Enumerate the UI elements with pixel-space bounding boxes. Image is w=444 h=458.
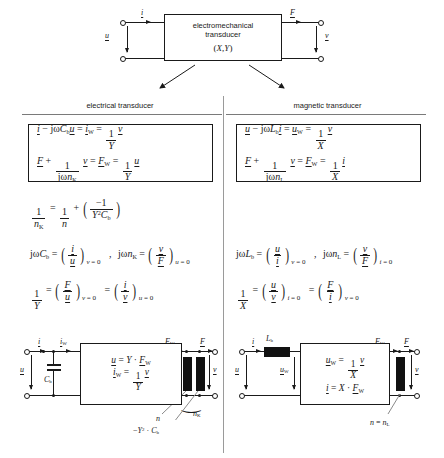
- left-circuit-box: u = Y · FW iW = 1Yv: [80, 343, 182, 405]
- left-cap-node-bottom: [52, 394, 55, 397]
- relation-electrical-2: jωCb = ( iu )v = 0 , jωnK = ( vF )u = 0: [30, 244, 190, 266]
- left-cap-plate-2: [47, 369, 61, 371]
- equation-box-magnetic: u − jωLbi = uW = 1Xv F + 1jωnL v = FW = …: [236, 124, 421, 182]
- right-label-u: u: [235, 365, 239, 374]
- left-transformer-n: [183, 357, 192, 391]
- label-output-force: F: [290, 8, 295, 17]
- current-arrow-in: [138, 22, 150, 23]
- figure-canvas: electromechanical transducer (X,Y) i u F…: [0, 0, 444, 458]
- column-header-magnetic: magnetic transducer: [230, 101, 425, 110]
- terminal-in-top: [120, 20, 126, 26]
- left-cap-lead-bottom: [53, 371, 54, 395]
- equation-magnetic-1: u − jωLbi = uW = 1Xv: [237, 121, 420, 153]
- transducer-params: (X,Y): [214, 43, 233, 54]
- left-u-arrow: [31, 355, 32, 389]
- right-terminal-in-bottom: [239, 393, 245, 399]
- left-label-i: i: [38, 337, 40, 346]
- transducer-line-2: transducer: [205, 30, 240, 39]
- right-label-uw: uW: [280, 365, 289, 374]
- equation-electrical-1: i − jωCbu = iW = 1Yv: [29, 121, 212, 153]
- left-cap-node-top: [52, 350, 55, 353]
- right-label-n-equals-nL: n = nL: [370, 418, 390, 427]
- relation-magnetic-1: jωLb = ( ui )v = 0 , jωnL = ( vF )i = 0: [236, 244, 392, 266]
- right-i-arrow: [251, 351, 260, 352]
- right-u-arrow: [246, 355, 247, 389]
- left-label-v: v: [213, 365, 217, 374]
- right-label-i: i: [252, 337, 254, 346]
- right-F-arrow: [403, 351, 413, 352]
- right-transformer-nL: [396, 357, 405, 391]
- left-i-arrow: [36, 351, 44, 352]
- left-tr-n-node-top: [185, 350, 188, 353]
- left-terminal-in-bottom: [24, 393, 30, 399]
- right-label-Lb: Lb: [266, 334, 273, 343]
- branch-arrows: [0, 62, 444, 100]
- port-wire-in-bottom: [125, 58, 165, 59]
- left-iw-arrow: [60, 351, 70, 352]
- left-F-arrow: [203, 351, 212, 352]
- divider-top-left: [22, 114, 222, 115]
- equation-electrical-2: F + 1jωnK v = FW = 1Yu: [29, 153, 212, 185]
- right-terminal-out-bottom: [414, 393, 420, 399]
- right-circuit-eq-1: uW = 1Xv: [321, 354, 369, 382]
- left-circuit-eq-1: u = Y · FW: [106, 354, 155, 366]
- terminal-out-top: [318, 20, 324, 26]
- relation-electrical-1: 1nK = 1n + ( −1Y2Cb ): [30, 198, 121, 229]
- right-tr-node-top: [398, 350, 401, 353]
- equation-box-electrical: i − jωCbu = iW = 1Yv F + 1jωnK v = FW = …: [28, 124, 213, 182]
- velocity-arrow-out: [316, 26, 317, 52]
- divider-top-right: [226, 114, 426, 115]
- left-tr-nK-node-top: [198, 350, 201, 353]
- label-input-current: i: [141, 8, 143, 17]
- column-header-electrical: electrical transducer: [25, 101, 215, 110]
- divider-vertical: [223, 96, 224, 453]
- left-label-u: u: [20, 365, 24, 374]
- left-cap-plate-1: [47, 364, 61, 366]
- left-cap-lead-top: [53, 352, 54, 364]
- left-transformer-nK: [196, 357, 205, 391]
- right-v-arrow: [411, 355, 412, 389]
- right-circuit-eq-2: i = X · FW: [321, 382, 369, 394]
- relation-electrical-3: 1Y = ( Fu )v = 0 = ( iv )u = 0: [30, 280, 153, 311]
- transducer-line-1: electromechanical: [193, 21, 253, 30]
- port-wire-out-bottom: [280, 58, 320, 59]
- label-output-velocity: v: [325, 31, 329, 40]
- voltage-arrow-in: [127, 26, 128, 52]
- right-label-v: v: [415, 365, 419, 374]
- force-arrow-out: [288, 22, 300, 23]
- label-input-voltage: u: [105, 31, 109, 40]
- left-label-negY2Cb: −Y2 · Cb: [133, 426, 159, 435]
- right-circuit-box: uW = 1Xv i = X · FW: [300, 343, 390, 405]
- relation-magnetic-2: 1X = ( uv )i = 0 = ( Fi )v = 0: [236, 280, 359, 311]
- right-terminal-in-top: [239, 349, 245, 355]
- right-inductor-Lb: [264, 347, 290, 357]
- right-terminal-out-top: [414, 349, 420, 355]
- left-label-F: F: [200, 337, 205, 346]
- left-terminal-in-top: [24, 349, 30, 355]
- right-label-F: F: [404, 337, 409, 346]
- left-label-n: n: [156, 414, 160, 423]
- right-uw-arrow: [294, 357, 295, 389]
- transducer-block: electromechanical transducer (X,Y): [164, 14, 282, 61]
- left-circuit-eq-2: iW = 1Yv: [108, 366, 154, 394]
- left-label-iw: iW: [60, 337, 67, 346]
- left-label-Cb: Cb: [44, 375, 52, 384]
- equation-magnetic-2: F + 1jωnL v = FW = 1Xi: [237, 153, 420, 185]
- left-v-arrow: [209, 355, 210, 389]
